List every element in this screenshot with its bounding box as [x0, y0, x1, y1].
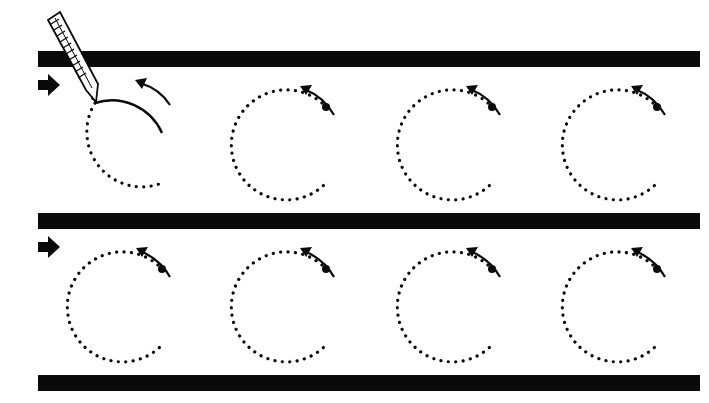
start-dot-icon	[653, 265, 661, 273]
start-dot-icon	[488, 265, 496, 273]
start-dot-icon	[653, 103, 661, 111]
letter-c-dotted	[67, 247, 170, 362]
tracing-area	[0, 0, 709, 403]
start-dot-icon	[488, 103, 496, 111]
start-dot-icon	[158, 265, 166, 273]
letter-c-dotted	[562, 85, 665, 200]
letter-c-dotted	[397, 85, 500, 200]
letter-c-dotted	[562, 247, 665, 362]
arrow-right-icon	[38, 74, 60, 96]
start-dot-icon	[322, 103, 330, 111]
letter-c-traced	[87, 78, 170, 187]
letter-c-dotted	[397, 247, 500, 362]
arrow-right-icon	[38, 236, 60, 258]
letter-c-dotted	[231, 85, 334, 200]
start-dot-icon	[322, 265, 330, 273]
letter-c-dotted	[231, 247, 334, 362]
